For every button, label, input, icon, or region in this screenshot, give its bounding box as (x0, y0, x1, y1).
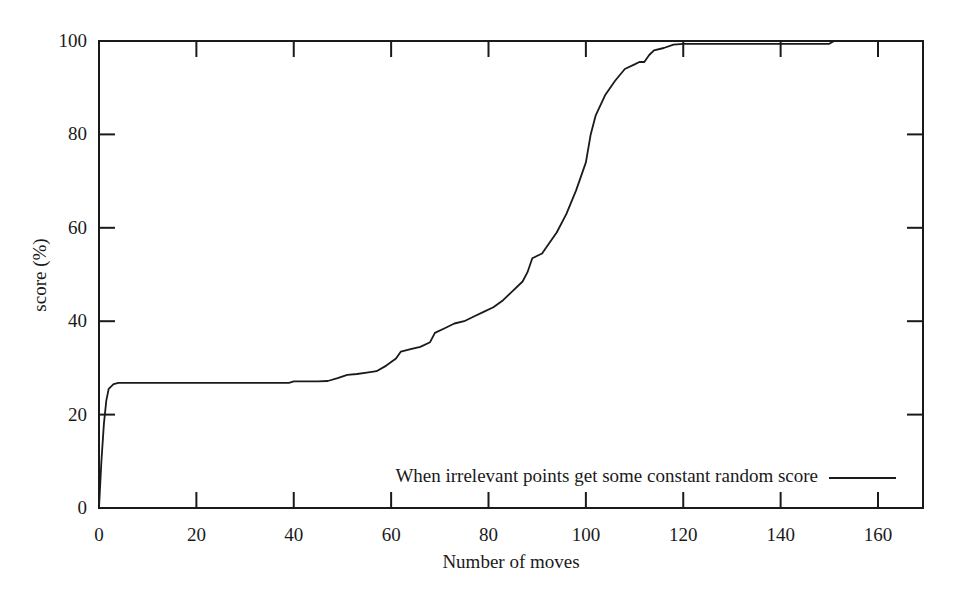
y-tick-label: 100 (59, 30, 88, 51)
x-tick-label: 120 (669, 524, 698, 545)
x-tick-label: 40 (284, 524, 303, 545)
line-chart: 020406080100120140160 020406080100 Numbe… (0, 0, 957, 601)
x-tick-label: 0 (94, 524, 104, 545)
x-tick-label: 80 (479, 524, 498, 545)
y-tick-label: 80 (68, 123, 87, 144)
x-axis-tick-labels: 020406080100120140160 (94, 524, 892, 545)
x-tick-label: 20 (187, 524, 206, 545)
y-axis-tick-labels: 020406080100 (59, 30, 88, 518)
legend-label: When irrelevant points get some constant… (395, 465, 818, 486)
x-tick-label: 140 (766, 524, 795, 545)
y-axis-title: score (%) (29, 238, 51, 311)
plot-frame (99, 41, 923, 508)
series-line (99, 41, 917, 508)
y-tick-label: 20 (68, 404, 87, 425)
y-axis-ticks (99, 134, 923, 414)
x-tick-label: 160 (864, 524, 893, 545)
y-tick-label: 0 (78, 497, 88, 518)
y-tick-label: 60 (68, 217, 87, 238)
plot-border (99, 41, 923, 508)
y-tick-label: 40 (68, 310, 87, 331)
x-axis-ticks (196, 41, 878, 508)
x-tick-label: 100 (572, 524, 601, 545)
x-axis-title: Number of moves (442, 551, 579, 572)
x-tick-label: 60 (382, 524, 401, 545)
legend: When irrelevant points get some constant… (395, 465, 896, 486)
